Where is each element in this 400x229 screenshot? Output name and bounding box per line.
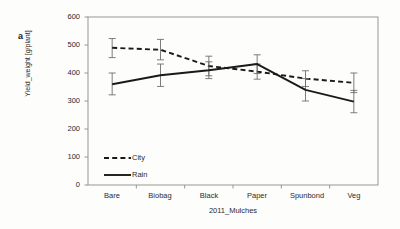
plot-svg xyxy=(0,0,400,229)
error-bar xyxy=(350,73,357,93)
plot-frame xyxy=(88,17,378,185)
figure-panel-a: a Yield_weight [g/plant] 2011_Mulches 60… xyxy=(0,0,400,229)
